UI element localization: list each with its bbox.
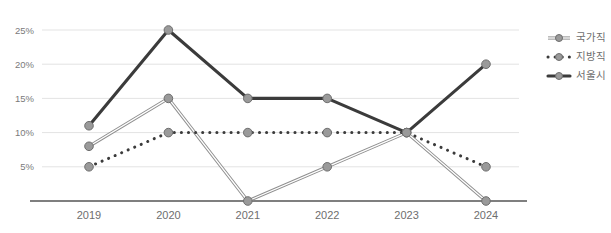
- legend-label: 지방직: [576, 50, 606, 62]
- series-lines: [89, 30, 486, 201]
- x-axis-tick-label: 2023: [394, 209, 418, 221]
- legend-item-지방직[interactable]: 지방직: [548, 50, 606, 62]
- series-markers: [85, 26, 491, 206]
- data-point-marker: [323, 94, 332, 103]
- legend-swatch-marker: [556, 35, 563, 42]
- data-point-marker: [164, 128, 173, 137]
- x-axis-tick-labels: 201920202021202220232024: [77, 209, 498, 221]
- x-axis-tick-label: 2020: [156, 209, 180, 221]
- y-axis-tick-label: 25%: [15, 25, 35, 36]
- data-point-marker: [244, 94, 253, 103]
- data-point-marker: [85, 121, 94, 130]
- y-axis-tick-label: 15%: [15, 93, 35, 104]
- data-point-marker: [244, 197, 253, 206]
- data-point-marker: [164, 94, 173, 103]
- chart-legend: 국가직지방직서울시: [548, 31, 606, 81]
- legend-label: 서울시: [576, 69, 606, 81]
- data-point-marker: [164, 26, 173, 35]
- x-axis-tick-label: 2024: [474, 209, 498, 221]
- data-point-marker: [85, 142, 94, 151]
- series-line-서울시: [89, 30, 486, 133]
- data-point-marker: [244, 128, 253, 137]
- data-point-marker: [402, 128, 411, 137]
- y-axis-tick-label: 10%: [15, 127, 35, 138]
- legend-item-국가직[interactable]: 국가직: [548, 31, 606, 43]
- x-axis-tick-label: 2021: [236, 209, 260, 221]
- chart-canvas: 5%10%15%20%25% 201920202021202220232024 …: [0, 0, 611, 233]
- line-chart: 5%10%15%20%25% 201920202021202220232024 …: [0, 0, 611, 233]
- x-axis-tick-label: 2022: [315, 209, 339, 221]
- y-axis-tick-labels: 5%10%15%20%25%: [15, 25, 35, 173]
- y-axis-tick-label: 20%: [15, 59, 35, 70]
- legend-item-서울시[interactable]: 서울시: [548, 69, 606, 81]
- data-point-marker: [482, 163, 491, 172]
- data-point-marker: [323, 163, 332, 172]
- data-point-marker: [323, 128, 332, 137]
- x-axis-tick-label: 2019: [77, 209, 101, 221]
- data-point-marker: [482, 197, 491, 206]
- legend-swatch-marker: [556, 54, 563, 61]
- legend-swatch-marker: [556, 73, 563, 80]
- y-axis-tick-label: 5%: [20, 161, 34, 172]
- legend-label: 국가직: [576, 31, 606, 43]
- data-point-marker: [85, 163, 94, 172]
- data-point-marker: [482, 60, 491, 69]
